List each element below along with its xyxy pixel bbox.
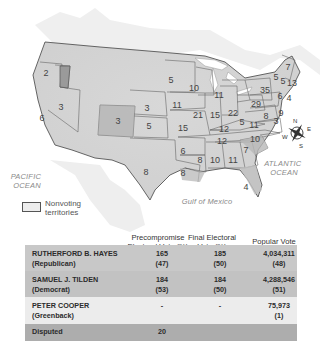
results-table: RUTHERFORD B. HAYES (Republican) 165 (47…: [25, 245, 297, 341]
final-pct: (50): [200, 285, 240, 295]
state-label-ms: 8: [197, 155, 202, 165]
precompromise-cell: 184 (53): [147, 275, 177, 295]
state-label-ny: 35: [260, 85, 270, 95]
compass-s: S: [299, 143, 303, 149]
final-votes: -: [200, 301, 240, 311]
final-cell: 185 (50): [200, 249, 240, 269]
final-cell: -: [200, 301, 240, 311]
state-label-ks: 5: [146, 121, 151, 131]
pacific-line-1: PACIFIC: [11, 172, 42, 181]
precompromise-votes: 165: [147, 249, 177, 259]
compass-n: N: [293, 118, 297, 124]
legend-label: Nonvoting territories: [45, 199, 95, 217]
popular-cell: 4,034,311 (48): [257, 249, 301, 269]
state-label-fl: 4: [243, 182, 248, 192]
state-label-vt: 5: [273, 72, 278, 82]
nonvoting-territory-swatch: [22, 202, 41, 212]
state-label-or: 2: [43, 68, 48, 78]
state-label-mo: 15: [178, 123, 188, 133]
state-label-ne: 3: [144, 103, 149, 113]
pacific-ocean-label: PACIFIC OCEAN: [11, 172, 44, 190]
state-label-ga: 11: [228, 155, 237, 165]
table-row-cooper: PETER COOPER (Greenback) - - 75,973 (1): [25, 297, 297, 324]
state-label-ky: 12: [219, 124, 229, 134]
precompromise-cell: 165 (47): [147, 249, 177, 269]
state-label-ia: 11: [172, 100, 181, 110]
state-label-nj: 9: [278, 108, 283, 118]
popular-votes: 4,288,546: [257, 275, 301, 285]
precompromise-pct: (47): [147, 259, 177, 269]
state-label-va: 11: [249, 120, 258, 130]
popular-votes: 75,973: [257, 301, 301, 311]
candidate-party: (Republican): [32, 259, 118, 269]
state-label-in: 15: [210, 110, 220, 120]
table-row-tilden: SAMUEL J. TILDEN (Democrat) 184 (53) 184…: [25, 271, 297, 297]
precompromise-cell: 20: [147, 327, 177, 337]
state-label-il: 21: [193, 110, 203, 120]
map-legend: Nonvoting territories: [22, 199, 95, 217]
popular-pct: (48): [257, 259, 301, 269]
state-label-tn: 12: [217, 136, 227, 146]
state-label-ar: 6: [180, 146, 185, 156]
atlantic-ocean-label: ATLANTIC OCEAN: [263, 159, 304, 177]
popular-votes: 4,034,311: [257, 249, 301, 259]
state-label-de: 3: [273, 116, 278, 126]
popular-pct: (1): [257, 311, 301, 321]
idaho-dark: [60, 66, 70, 88]
final-cell: 184 (50): [200, 275, 240, 295]
state-label-tx: 8: [143, 167, 148, 177]
candidate-cell: RUTHERFORD B. HAYES (Republican): [32, 249, 118, 269]
compass-rose-icon: N E W S: [282, 118, 311, 149]
atlantic-line-1: ATLANTIC: [263, 159, 302, 168]
state-label-pa: 29: [251, 99, 261, 109]
gulf-of-mexico-label: Gulf of Mexico: [182, 197, 233, 206]
compass-w: W: [282, 134, 288, 140]
table-row-disputed: Disputed 20: [25, 324, 297, 341]
state-label-nc: 10: [250, 134, 260, 144]
compass-e: E: [307, 126, 311, 132]
state-label-ri: 4: [286, 93, 291, 103]
state-label-wv: 5: [239, 117, 244, 127]
candidate-cell: SAMUEL J. TILDEN (Democrat): [32, 275, 98, 295]
final-pct: (50): [200, 259, 240, 269]
candidate-name: RUTHERFORD B. HAYES: [32, 249, 118, 259]
candidate-party: (Democrat): [32, 285, 98, 295]
disputed-label: Disputed: [32, 327, 63, 337]
precompromise-cell: -: [147, 301, 177, 311]
state-label-nh: 5: [280, 76, 285, 86]
candidate-name: PETER COOPER: [32, 301, 89, 311]
candidate-cell: PETER COOPER (Greenback): [32, 301, 89, 321]
precompromise-votes: 184: [147, 275, 177, 285]
state-label-sc: 7: [243, 145, 248, 155]
candidate-name: SAMUEL J. TILDEN: [32, 275, 98, 285]
final-votes: 184: [200, 275, 240, 285]
candidate-party: (Greenback): [32, 311, 89, 321]
popular-pct: (51): [257, 285, 301, 295]
state-label-wi: 10: [189, 83, 199, 93]
state-label-me: 7: [285, 62, 290, 72]
state-label-al: 10: [210, 155, 220, 165]
disputed-votes: 20: [147, 327, 177, 337]
state-label-la: 8: [180, 168, 185, 178]
state-label-co: 3: [115, 116, 120, 126]
state-label-md: 8: [263, 111, 268, 121]
state-label-ca: 6: [39, 113, 44, 123]
state-label-mi: 11: [214, 90, 223, 100]
table-row-hayes: RUTHERFORD B. HAYES (Republican) 165 (47…: [25, 245, 297, 271]
state-label-oh: 22: [228, 108, 238, 118]
atlantic-line-2: OCEAN: [270, 168, 298, 177]
candidate-cell: Disputed: [32, 327, 63, 337]
popular-cell: 75,973 (1): [257, 301, 301, 321]
state-label-ma: 13: [287, 78, 297, 88]
state-label-nv: 3: [58, 102, 63, 112]
pacific-line-2: OCEAN: [13, 181, 41, 190]
state-label-mn: 5: [168, 75, 173, 85]
popular-cell: 4,288,546 (51): [257, 275, 301, 295]
precompromise-votes: -: [147, 301, 177, 311]
final-votes: 185: [200, 249, 240, 259]
precompromise-pct: (53): [147, 285, 177, 295]
state-label-ct: 6: [277, 91, 282, 101]
